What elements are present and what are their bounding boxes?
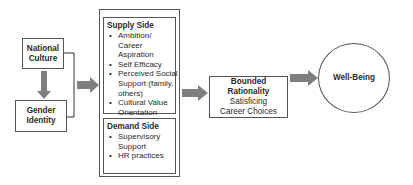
demand-side-box: Demand Side Supervisory Support HR pract… [103,118,176,174]
list-item: Self Efficacy [118,60,173,70]
factors-container: Supply Side Ambition/ Career Aspiration … [99,9,180,177]
list-item: Ambition/ Career Aspiration [118,31,164,60]
right-arrow-icon [77,77,99,93]
bracket-connector [64,52,78,118]
well-being-circle: Well-Being [318,43,390,113]
supply-side-box: Supply Side Ambition/ Career Aspiration … [103,17,176,114]
national-culture-label: National Culture [24,44,62,64]
supply-side-list: Ambition/ Career Aspiration Self Efficac… [107,31,173,117]
list-item: Supervisory Support [118,132,168,151]
right-arrow-icon [290,70,318,86]
list-item: Cultural Value Orientation [118,98,174,117]
bounded-rationality-box: Bounded Rationality Satisficing Career C… [209,76,288,118]
list-item: Perceived Social Support (family, others… [118,69,178,98]
gender-identity-box: Gender Identity [15,100,67,132]
national-culture-box: National Culture [22,38,64,69]
list-item: HR practices [118,151,173,161]
bounded-rationality-subtitle: Satisficing Career Choices [217,97,281,117]
well-being-label: Well-Being [333,73,375,83]
gender-identity-label: Gender Identity [19,106,63,126]
supply-side-title: Supply Side [107,21,173,31]
demand-side-list: Supervisory Support HR practices [107,132,173,161]
demand-side-title: Demand Side [107,122,173,132]
bounded-rationality-title: Bounded Rationality [210,77,287,97]
right-arrow-icon [182,85,208,101]
down-arrow-icon [37,70,51,100]
